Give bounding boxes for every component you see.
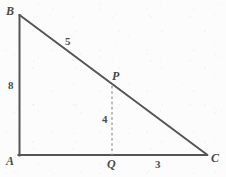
vertex-label-p: P: [112, 70, 119, 82]
length-label-qc: 3: [155, 159, 161, 170]
geometry-figure: B A C P Q 8 5 4 3: [0, 0, 226, 177]
vertex-label-q: Q: [107, 158, 116, 170]
vertex-label-a: A: [6, 155, 14, 167]
length-label-bp: 5: [65, 36, 71, 47]
vertex-label-c: C: [211, 152, 219, 164]
vertex-label-b: B: [6, 5, 14, 17]
length-label-ab: 8: [8, 80, 14, 91]
length-label-pq: 4: [102, 114, 108, 125]
triangle-drawing: [0, 0, 226, 177]
segment-bc-hypotenuse: [20, 15, 208, 155]
